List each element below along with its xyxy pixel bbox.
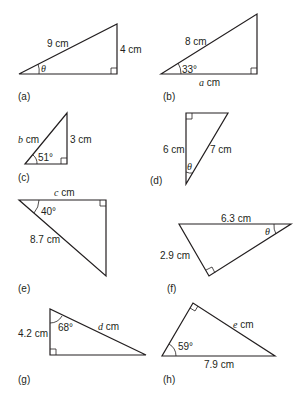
triangle-a-opposite-label: 4 cm	[120, 45, 142, 55]
triangle-f-hypotenuse-label: 6.3 cm	[221, 214, 251, 224]
triangle-a	[19, 24, 117, 74]
triangle-a-angle-label: θ	[41, 64, 46, 74]
triangle-c-hypotenuse-label: b cm	[18, 135, 39, 145]
figure-label-e: (e)	[18, 284, 30, 294]
figure-label-g: (g)	[18, 375, 30, 385]
triangle-g-adjacent-label: 4.2 cm	[18, 329, 48, 339]
figure-label-d: (d)	[150, 176, 162, 186]
triangle-b	[161, 14, 257, 74]
figure-label-c: (c)	[18, 173, 30, 183]
triangle-e-hypotenuse-label: 8.7 cm	[30, 235, 60, 245]
triangle-b-hypotenuse-label: 8 cm	[185, 37, 207, 47]
triangle-g-angle-label: 68°	[58, 323, 73, 333]
triangle-d-adjacent-label: 6 cm	[163, 145, 185, 155]
triangle-f-opposite-label: 2.9 cm	[160, 251, 190, 261]
figure-label-a: (a)	[18, 92, 30, 102]
unit-text: cm	[204, 77, 220, 88]
triangle-f-angle-label: θ	[265, 227, 270, 237]
figure-label-b: (b)	[163, 92, 175, 102]
triangle-d-angle-label: θ	[187, 162, 192, 172]
triangle-e-adjacent-label: c cm	[54, 188, 75, 198]
triangle-c-angle-label: 51°	[38, 153, 53, 163]
triangle-f	[179, 224, 291, 276]
unit-text: cm	[58, 187, 74, 198]
triangle-d-hypotenuse-label: 7 cm	[210, 145, 232, 155]
triangle-h-angle-label: 59°	[178, 342, 193, 352]
unit-text: cm	[103, 321, 119, 332]
triangle-a-hypotenuse-label: 9 cm	[47, 39, 69, 49]
triangle-h-hypotenuse-label: 7.9 cm	[204, 360, 234, 370]
figure-label-f: (f)	[167, 284, 176, 294]
triangle-h-opposite-label: e cm	[233, 320, 254, 330]
figure-label-h: (h)	[163, 375, 175, 385]
triangle-c-opposite-label: 3 cm	[70, 135, 92, 145]
unit-text: cm	[23, 134, 39, 145]
triangle-b-adjacent-label: a cm	[199, 78, 220, 88]
unit-text: cm	[237, 319, 253, 330]
triangles-diagram	[0, 0, 307, 406]
triangle-g-hypotenuse-label: d cm	[98, 322, 119, 332]
triangle-b-angle-label: 33°	[182, 65, 197, 75]
triangle-e-angle-label: 40°	[41, 207, 56, 217]
